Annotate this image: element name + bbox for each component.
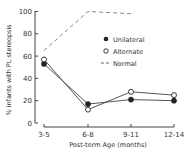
y-tick-label: 100 <box>19 8 32 16</box>
y-tick-label: 40 <box>23 75 32 83</box>
series-line-normal <box>44 12 131 51</box>
x-tick-label: 6-8 <box>82 131 93 139</box>
y-tick-label: 60 <box>23 53 32 61</box>
line-chart: 020406080100 3-56-89-1112-14 % infants w… <box>0 0 190 151</box>
data-point-unilateral <box>171 98 176 103</box>
series-layer <box>41 12 176 113</box>
series-line-unilateral <box>44 64 174 104</box>
legend-normal-label: Normal <box>113 60 137 68</box>
data-point-alternate <box>172 93 177 98</box>
y-axis-label: % infants with PL stereopsis <box>5 24 13 116</box>
x-ticks: 3-56-89-1112-14 <box>38 124 184 139</box>
data-point-alternate <box>129 89 134 94</box>
data-point-alternate <box>42 57 47 62</box>
legend-alternate-label: Alternate <box>113 48 143 56</box>
y-tick-label: 20 <box>23 97 32 105</box>
y-tick-label: 0 <box>28 120 32 128</box>
legend-alternate-marker-icon <box>104 49 108 53</box>
x-tick-label: 12-14 <box>164 131 185 139</box>
y-tick-label: 80 <box>23 30 32 38</box>
x-tick-label: 9-11 <box>123 131 139 139</box>
x-axis-label: Post-term Age (months) <box>69 141 147 149</box>
x-tick-label: 3-5 <box>38 131 49 139</box>
legend: Unilateral Alternate Normal <box>101 36 145 68</box>
data-point-unilateral <box>128 97 133 102</box>
legend-unilateral-marker-icon <box>104 37 109 42</box>
data-point-alternate <box>86 107 91 112</box>
legend-unilateral-label: Unilateral <box>113 36 145 44</box>
data-point-unilateral <box>85 101 90 106</box>
